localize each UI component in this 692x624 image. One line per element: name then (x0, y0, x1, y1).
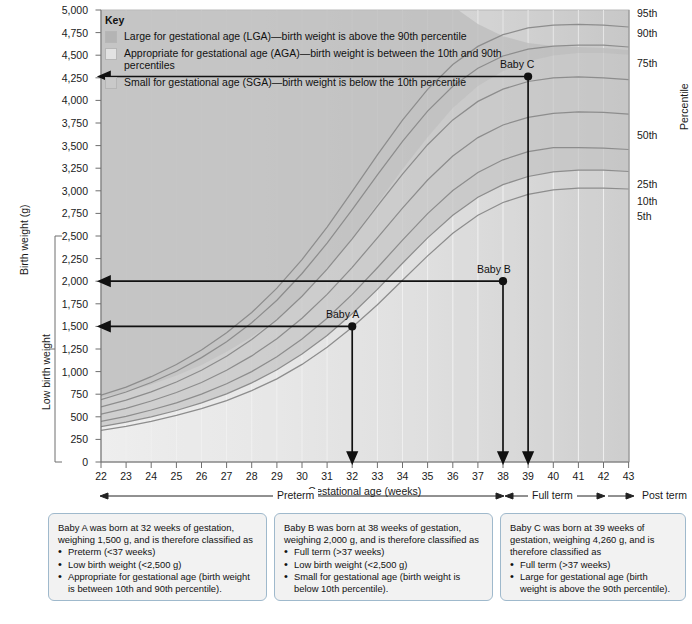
x-axis (101, 462, 629, 468)
term-label-full-term: Full term (528, 489, 577, 501)
sga-swatch-icon (105, 77, 117, 89)
aga-swatch-icon (105, 48, 117, 60)
caption-baby-c-intro: Baby C was born at 39 weeks of gestation… (510, 522, 677, 559)
key-item-sga-label: Small for gestational age (SGA)—birth we… (124, 76, 517, 89)
list-item: Large for gestational age (birth weight … (510, 571, 677, 595)
x-axis-title: Gestational age (weeks) (308, 485, 421, 497)
baby-a-label: Baby A (326, 308, 359, 320)
baby-b-label: Baby B (477, 263, 511, 275)
key-item-aga: Appropriate for gestational age (AGA)—bi… (105, 47, 517, 72)
percentile-label-50th: 50th (637, 130, 657, 140)
y-axis-title: Birth weight (g) (18, 204, 30, 275)
caption-baby-c-bullets: Full term (>37 weeks) Large for gestatio… (510, 559, 677, 596)
lga-swatch-icon (105, 31, 117, 43)
baby-b-point (499, 277, 507, 285)
list-item: Full term (>37 weeks) (510, 559, 677, 571)
key-item-sga: Small for gestational age (SGA)—birth we… (105, 76, 517, 89)
key-item-lga: Large for gestational age (LGA)—birth we… (105, 30, 517, 43)
percentile-label-75th: 75th (637, 58, 657, 68)
list-item: Full term (>37 weeks) (284, 546, 484, 558)
term-label-post-term: Post term (638, 489, 691, 501)
percentile-label-95th: 95th (637, 8, 657, 18)
list-item: Appropriate for gestational age (birth w… (58, 571, 258, 595)
percentile-label-90th: 90th (637, 28, 657, 38)
caption-baby-b: Baby B was born at 38 weeks of gestation… (274, 513, 493, 601)
list-item: Preterm (<37 weeks) (58, 546, 258, 558)
chart-key: Key Large for gestational age (LGA)—birt… (105, 14, 517, 93)
key-item-aga-label: Appropriate for gestational age (AGA)—bi… (124, 47, 517, 72)
baby-c-label: Baby C (500, 58, 534, 70)
percentile-label-5th: 5th (637, 211, 652, 221)
caption-baby-a: Baby A was born at 32 weeks of gestation… (48, 513, 267, 601)
list-item: Small for gestational age (birth weight … (284, 571, 484, 595)
low-birth-weight-label: Low birth weight (40, 334, 52, 410)
caption-baby-a-intro: Baby A was born at 32 weeks of gestation… (58, 522, 258, 546)
caption-baby-b-intro: Baby B was born at 38 weeks of gestation… (284, 522, 484, 546)
key-item-lga-label: Large for gestational age (LGA)—birth we… (124, 30, 517, 43)
term-label-preterm: Preterm (273, 489, 318, 501)
baby-a-point (348, 322, 356, 330)
key-title: Key (105, 14, 517, 27)
list-item: Low birth weight (<2,500 g) (58, 559, 258, 571)
percentile-label-25th: 25th (637, 179, 657, 189)
list-item: Low birth weight (<2,500 g) (284, 559, 484, 571)
percentile-axis-title: Percentile (678, 83, 690, 130)
caption-baby-a-bullets: Preterm (<37 weeks) Low birth weight (<2… (58, 546, 258, 595)
caption-baby-c: Baby C was born at 39 weeks of gestation… (500, 513, 686, 601)
caption-baby-b-bullets: Full term (>37 weeks) Low birth weight (… (284, 546, 484, 595)
percentile-label-10th: 10th (637, 196, 657, 206)
baby-c-point (524, 72, 532, 80)
